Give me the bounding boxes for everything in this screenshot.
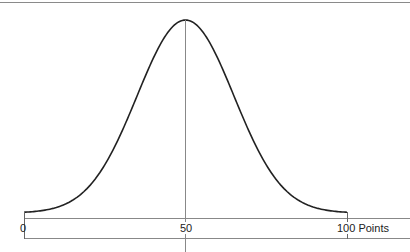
axis-label-mid: 50	[179, 222, 193, 234]
axis-label-min: 0	[20, 222, 26, 234]
bell-curve-diagram	[0, 0, 410, 252]
axis-label-max: 100 Points	[337, 222, 389, 234]
